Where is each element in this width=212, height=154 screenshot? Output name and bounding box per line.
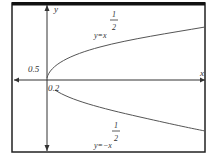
upper-exponent-num: 1 [112, 10, 116, 19]
upper-curve-label: y=x [93, 31, 107, 40]
upper-exponent-den: 2 [112, 23, 116, 32]
x-tick-label: 0.2 [48, 83, 60, 93]
top-bar [12, 2, 205, 6]
lower-exponent-num: 1 [114, 121, 118, 130]
y-axis-label: y [53, 4, 58, 14]
sqrt-plot: y x 0.5 0.2 y=x 1 2 y=−x 1 2 [0, 0, 212, 154]
plot-frame: y x 0.5 0.2 y=x 1 2 y=−x 1 2 [0, 0, 212, 154]
plot-border [12, 3, 205, 152]
y-tick-label: 0.5 [28, 64, 40, 74]
x-axis-label: x [199, 68, 204, 78]
lower-curve-label: y=−x [93, 141, 112, 150]
lower-exponent-den: 2 [114, 134, 118, 143]
